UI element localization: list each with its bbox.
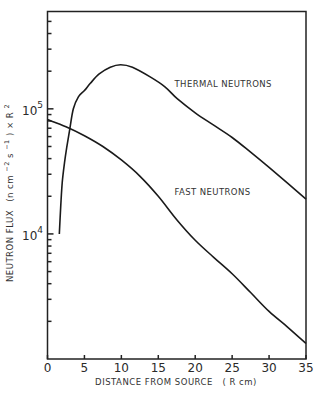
x-tick-label: 25 [225, 361, 240, 375]
curve-annotations: THERMAL NEUTRONSFAST NEUTRONS [174, 79, 272, 197]
x-tick-label: 0 [44, 361, 52, 375]
chart: 05101520253035 104105 THERMAL NEUTRONSFA… [0, 0, 319, 395]
y-axis-label-units-open: (n cm [5, 175, 15, 202]
series-curves [48, 65, 307, 344]
y-axis-label-sup2: −1 [3, 139, 11, 150]
y-tick-label-base: 10 [22, 104, 37, 118]
x-tick-label: 5 [81, 361, 89, 375]
x-tick-label: 10 [114, 361, 129, 375]
curve-fast-neutrons [48, 120, 307, 344]
annotation-label: FAST NEUTRONS [175, 187, 251, 197]
y-tick-labels: 104105 [22, 100, 43, 243]
x-axis-label: DISTANCE FROM SOURCE ( R cm) [95, 377, 257, 387]
y-axis-label-sup1: −2 [3, 161, 11, 172]
annotation-label: THERMAL NEUTRONS [174, 79, 272, 89]
y-axis-label-sup3: 2 [3, 104, 11, 109]
y-tick-label: 105 [22, 100, 43, 118]
x-tick-label: 35 [298, 361, 313, 375]
x-tick-label: 20 [188, 361, 203, 375]
y-tick-label-exponent: 4 [37, 225, 43, 235]
y-tick-label: 104 [22, 225, 43, 243]
x-tick-labels: 05101520253035 [44, 361, 314, 375]
y-axis-label: NEUTRON FLUX (n cm −2 s −1 ) × R 2 [1, 104, 15, 282]
x-tick-label: 15 [151, 361, 166, 375]
y-axis-label-units-close: ) × R [5, 112, 15, 136]
plot-frame [48, 12, 307, 360]
curve-thermal-neutrons [59, 65, 306, 234]
x-tick-label: 30 [261, 361, 276, 375]
y-axis-label-mid: s [5, 153, 15, 158]
y-tick-label-exponent: 5 [37, 100, 43, 110]
y-tick-label-base: 10 [22, 229, 37, 243]
y-axis-label-main: NEUTRON FLUX [5, 210, 15, 282]
